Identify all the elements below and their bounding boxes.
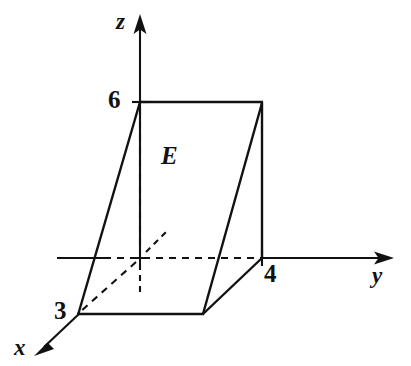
- z-axis-label: z: [116, 10, 125, 33]
- y-axis: [57, 252, 394, 265]
- x-tick-label-3: 3: [54, 298, 67, 323]
- x-axis: [34, 229, 169, 356]
- solid-region-figure: z y x 6 4 3 E: [0, 0, 411, 366]
- x-axis-hidden-segment: [80, 262, 136, 312]
- region-e-solid: [77, 102, 263, 315]
- y-tick-label-4: 4: [264, 261, 277, 286]
- y-axis-label: y: [372, 264, 382, 287]
- x-axis-label: x: [14, 336, 26, 359]
- x-axis-negative-stub: [146, 229, 169, 252]
- z-tick-label-6: 6: [108, 87, 121, 112]
- edge-left-slant: [78, 102, 140, 315]
- region-label-e: E: [161, 143, 178, 168]
- x-axis-arrowhead: [34, 343, 54, 357]
- edge-right-slant: [203, 103, 262, 314]
